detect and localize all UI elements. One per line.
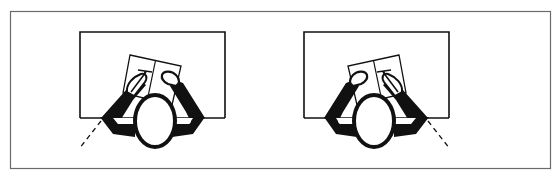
writing-posture-diagram [0,0,560,179]
figure-frame [11,12,551,169]
